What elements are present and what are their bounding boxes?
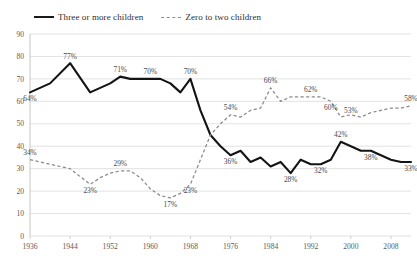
y-axis-tick-label: 70 xyxy=(16,75,24,84)
data-point-label: 66% xyxy=(264,76,278,85)
data-point-label: 28% xyxy=(284,175,298,184)
x-axis-tick-label: 1952 xyxy=(103,242,118,251)
data-point-label: 17% xyxy=(164,200,178,209)
x-axis-tick-label: 2008 xyxy=(383,242,398,251)
y-axis-tick-label: 20 xyxy=(16,187,24,196)
data-point-label: 33% xyxy=(404,164,417,173)
y-axis-ticks-group: 0102030405060708090 xyxy=(16,30,24,241)
data-point-label: 32% xyxy=(314,166,328,175)
data-point-label: 42% xyxy=(334,130,348,139)
y-axis-tick-label: 50 xyxy=(16,119,24,128)
y-axis-tick-label: 90 xyxy=(16,30,24,39)
x-axis-tick-label: 1936 xyxy=(22,242,37,251)
gridlines-group xyxy=(30,34,411,236)
data-point-label: 53% xyxy=(344,106,358,115)
series-line-dashed xyxy=(30,88,411,198)
data-point-label: 58% xyxy=(404,94,417,103)
x-axis-tick-label: 2000 xyxy=(343,242,358,251)
y-axis-tick-label: 30 xyxy=(16,164,24,173)
x-axis-tick-label: 1968 xyxy=(183,242,198,251)
data-point-label: 54% xyxy=(224,103,238,112)
x-axis-tick-label: 1992 xyxy=(303,242,318,251)
series-line-solid xyxy=(30,63,411,173)
data-point-label: 70% xyxy=(184,67,198,76)
chart-plot-area: 0102030405060708090 19361944195219601968… xyxy=(0,0,417,264)
data-point-label: 64% xyxy=(23,94,37,103)
data-series-group xyxy=(30,63,411,198)
data-point-label: 23% xyxy=(83,186,97,195)
data-point-label: 60% xyxy=(324,103,338,112)
y-axis-tick-label: 0 xyxy=(20,232,24,241)
chart-container: Three or more children Zero to two child… xyxy=(0,0,417,264)
y-axis-tick-label: 80 xyxy=(16,52,24,61)
data-point-label: 34% xyxy=(23,148,37,157)
data-point-label: 23% xyxy=(184,186,198,195)
x-axis-tick-label: 1984 xyxy=(263,242,278,251)
x-axis-tick-label: 1944 xyxy=(63,242,78,251)
data-point-label: 36% xyxy=(224,157,238,166)
x-axis-ticks-group: 1936194419521960196819761984199220002008 xyxy=(22,236,398,251)
x-axis-tick-label: 1960 xyxy=(143,242,158,251)
y-axis-tick-label: 10 xyxy=(16,209,24,218)
data-point-label: 29% xyxy=(113,159,127,168)
data-point-label: 62% xyxy=(304,85,318,94)
data-point-label: 70% xyxy=(144,67,158,76)
x-axis-tick-label: 1976 xyxy=(223,242,238,251)
data-point-label: 38% xyxy=(364,153,378,162)
data-point-label: 71% xyxy=(113,65,127,74)
data-labels-group: 64%77%71%70%70%36%28%32%42%38%33%34%23%2… xyxy=(23,52,417,209)
data-point-label: 77% xyxy=(63,52,77,61)
